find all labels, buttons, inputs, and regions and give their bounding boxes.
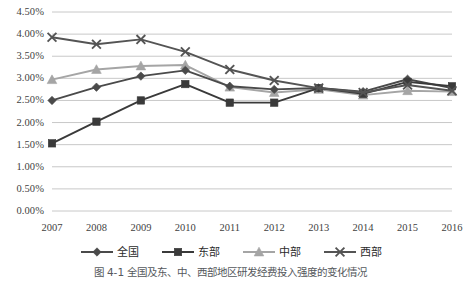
data-point-marker-square [137,97,144,104]
data-point-marker-square [93,118,100,125]
legend-entry-东部[interactable]: 东部 [161,246,220,258]
legend-marker-x-icon [323,246,357,258]
legend-label: 全国 [117,247,139,258]
legend-entry-全国[interactable]: 全国 [80,246,139,258]
data-point-marker-square [48,140,55,147]
figure-caption: 图 4-1 全国及东、中、西部地区研发经费投入强度的变化情况 [0,266,461,278]
data-point-marker-square [226,99,233,106]
series-中部 [47,60,457,99]
data-point-marker-square [174,248,181,255]
legend-label: 西部 [360,247,382,258]
y-axis-tick-label: 0.50% [0,184,44,195]
data-point-marker-square [271,99,278,106]
chart-plot-area: 0.00%0.50%1.00%1.50%2.00%2.50%3.00%3.50%… [0,0,461,238]
y-axis-tick-label: 3.00% [0,73,44,84]
y-axis-tick-label: 0.00% [0,206,44,217]
x-axis-tick-label: 2010 [162,223,208,234]
x-axis-tick-label: 2014 [340,223,386,234]
x-axis-tick-label: 2015 [385,223,431,234]
legend-marker-square-icon [161,246,195,258]
y-axis-tick-label: 4.00% [0,29,44,40]
y-axis-tick-label: 4.50% [0,7,44,18]
data-point-marker-square [182,80,189,87]
legend-label: 中部 [279,247,301,258]
y-axis-tick-label: 1.00% [0,162,44,173]
series-line [52,65,452,95]
legend-entry-中部[interactable]: 中部 [242,246,301,258]
data-point-marker-diamond [92,83,100,91]
y-axis-tick-label: 2.50% [0,95,44,106]
legend-marker-diamond-icon [80,246,114,258]
x-axis-tick-label: 2007 [29,223,75,234]
y-axis-tick-label: 1.50% [0,139,44,150]
series-line [52,82,452,143]
x-axis-tick-label: 2013 [296,223,342,234]
x-axis-tick-label: 2008 [73,223,119,234]
y-axis-tick-label: 3.50% [0,51,44,62]
chart-svg [0,0,461,238]
x-axis-tick-label: 2009 [118,223,164,234]
data-point-marker-diamond [92,248,100,256]
x-axis-tick-label: 2016 [429,223,467,234]
data-point-marker-diamond [48,96,56,104]
chart-legend: 全国东部中部西部 [0,243,461,261]
data-point-marker-diamond [137,72,145,80]
legend-label: 东部 [198,247,220,258]
y-axis-tick-label: 2.00% [0,117,44,128]
legend-marker-triangle-icon [242,246,276,258]
x-axis-tick-label: 2012 [251,223,297,234]
legend-entry-西部[interactable]: 西部 [323,246,382,258]
x-axis-tick-label: 2011 [207,223,253,234]
